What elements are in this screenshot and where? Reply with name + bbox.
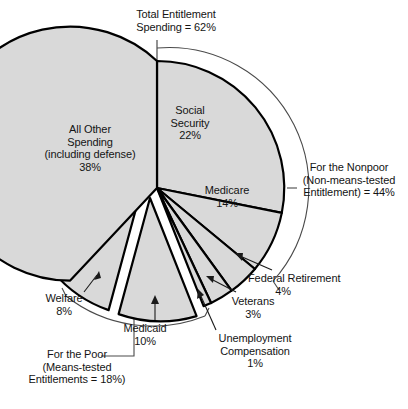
slice-label-medicare: Medicare 14% <box>192 184 262 209</box>
group-label-for-the-poor-line3: Entitlements = 18%) <box>2 373 152 386</box>
slice-label-social-security-line2: Security <box>160 117 220 130</box>
slice-label-veterans: Veterans 3% <box>222 295 284 320</box>
slice-label-all-other-spending-line3: (including defense) <box>28 148 152 161</box>
slice-label-medicaid: Medicaid 10% <box>112 322 178 347</box>
pie-chart-figure: Total Entitlement Spending = 62% For the… <box>0 0 408 409</box>
slice-label-federal-retirement: Federal Retirement 4% <box>248 272 360 297</box>
slice-label-unemployment-line1: Unemployment <box>202 332 308 345</box>
slice-label-all-other-spending-line2: Spending <box>28 136 152 149</box>
slice-label-federal-retirement-value: 4% <box>248 285 318 298</box>
slice-label-welfare-line1: Welfare <box>34 292 94 305</box>
slice-label-medicaid-line1: Medicaid <box>112 322 178 335</box>
slice-label-unemployment-value: 1% <box>202 357 308 370</box>
group-label-total-entitlement-line2: Spending = 62% <box>104 21 248 34</box>
slice-label-medicare-value: 14% <box>192 197 262 210</box>
slice-label-welfare: Welfare 8% <box>34 292 94 317</box>
slice-label-federal-retirement-line1: Federal Retirement <box>248 272 360 285</box>
slice-label-veterans-value: 3% <box>222 308 284 321</box>
slice-label-welfare-value: 8% <box>34 305 94 318</box>
slice-label-all-other-spending-line1: All Other <box>28 123 152 136</box>
slice-label-all-other-spending: All Other Spending (including defense) 3… <box>28 123 152 173</box>
group-label-for-the-poor-line2: (Means-tested <box>2 361 152 374</box>
slice-label-social-security: Social Security 22% <box>160 104 220 142</box>
slice-label-social-security-line1: Social <box>160 104 220 117</box>
slice-label-all-other-spending-value: 38% <box>28 161 152 174</box>
group-label-nonpoor: For the Nonpoor (Non-means-tested Entitl… <box>288 161 408 199</box>
slice-label-medicare-line1: Medicare <box>192 184 262 197</box>
group-label-for-the-poor-line1: For the Poor <box>2 348 152 361</box>
group-label-nonpoor-line1: For the Nonpoor <box>288 161 408 174</box>
slice-label-medicaid-value: 10% <box>112 335 178 348</box>
pie-slices <box>0 27 284 322</box>
group-label-nonpoor-line2: (Non-means-tested <box>288 174 408 187</box>
slice-label-social-security-value: 22% <box>160 129 220 142</box>
group-label-nonpoor-line3: Entitlement) = 44% <box>288 186 408 199</box>
group-label-total-entitlement: Total Entitlement Spending = 62% <box>104 8 248 33</box>
slice-label-unemployment-compensation: Unemployment Compensation 1% <box>202 332 308 370</box>
group-label-total-entitlement-line1: Total Entitlement <box>104 8 248 21</box>
group-label-for-the-poor: For the Poor (Means-tested Entitlements … <box>2 348 152 386</box>
slice-label-unemployment-line2: Compensation <box>202 345 308 358</box>
